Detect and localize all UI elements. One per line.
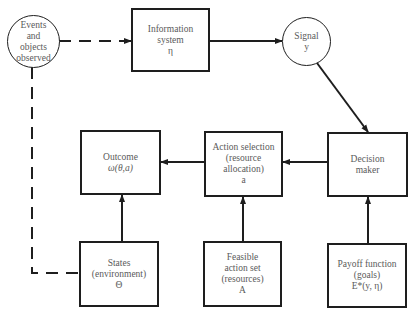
outcome-node: Outcome ω(θ,a) [80, 130, 161, 195]
feasible-label-2: action set [224, 263, 260, 274]
states-node: States (environment) Θ [79, 241, 159, 307]
states-label-3: Θ [116, 280, 123, 291]
payoff-label-3: E*(y, η) [352, 281, 383, 292]
action-selection-label-1: Action selection [213, 142, 275, 153]
decision-maker-node: Decision maker [327, 132, 408, 197]
info-system-node: Information system η [131, 8, 210, 72]
decision-maker-label-2: maker [356, 165, 380, 176]
outcome-label-2: ω(θ,a) [108, 163, 133, 174]
info-system-label-2: system [157, 35, 183, 46]
payoff-function-node: Payoff function (goals) E*(y, η) [327, 243, 407, 308]
payoff-label-1: Payoff function [337, 259, 396, 270]
feasible-label-4: A [239, 285, 246, 296]
action-selection-node: Action selection (resource allocation) a [204, 131, 283, 197]
decision-maker-label-1: Decision [351, 154, 385, 165]
events-label-2: and [27, 31, 41, 42]
action-selection-label-3: allocation) [223, 164, 264, 175]
feasible-label-1: Feasible [227, 252, 259, 263]
signal-node: Signal y [282, 17, 331, 66]
events-label-1: Events [21, 20, 47, 31]
feasible-label-3: (resources) [221, 274, 263, 285]
action-selection-label-2: (resource [226, 153, 261, 164]
payoff-label-2: (goals) [354, 270, 380, 281]
signal-label-1: Signal [294, 31, 318, 42]
signal-label-2: y [304, 42, 309, 53]
states-label-1: States [108, 258, 131, 269]
outcome-label-1: Outcome [103, 152, 138, 163]
events-label-3: objects [20, 42, 47, 53]
edge-signal-to-decision-maker [317, 63, 368, 132]
events-node: Events and objects observed [7, 15, 60, 68]
states-label-2: (environment) [92, 269, 146, 280]
info-system-label-1: Information [148, 24, 193, 35]
feasible-action-set-node: Feasible action set (resources) A [203, 241, 282, 307]
edge-events-to-states [32, 67, 78, 273]
action-selection-label-4: a [241, 175, 245, 186]
events-label-4: observed [16, 53, 50, 64]
info-system-label-3: η [168, 46, 173, 57]
